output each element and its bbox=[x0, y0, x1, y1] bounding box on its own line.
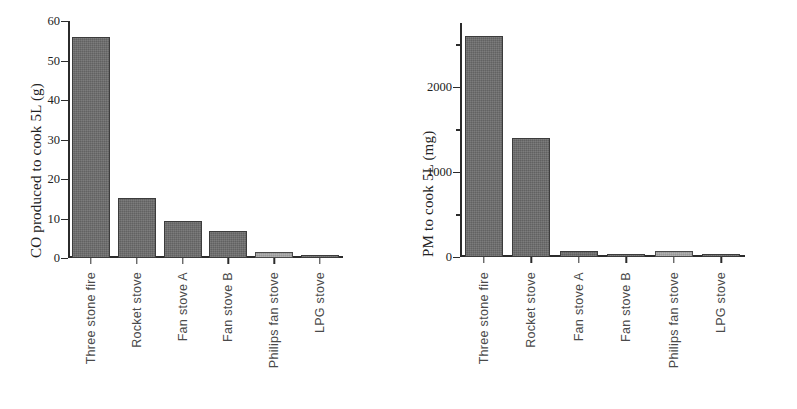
y-axis-label-pm: PM to cook 5L (mg) bbox=[420, 131, 437, 257]
x-axis-tick bbox=[721, 257, 722, 263]
panel-pm-emissions: PM to cook 5L (mg) 010002000 Three stone… bbox=[398, 0, 796, 409]
bar-series-co bbox=[68, 21, 343, 258]
x-axis-category-label: Rocket stove bbox=[524, 272, 538, 348]
y-axis-tick bbox=[61, 219, 68, 220]
bar bbox=[72, 37, 110, 258]
figure-two-panel-bar-charts: CO produced to cook 5L (g) 0102030405060… bbox=[0, 0, 797, 409]
x-axis-tick bbox=[274, 258, 275, 264]
x-axis-tick bbox=[673, 257, 674, 263]
x-axis-tick bbox=[136, 258, 137, 264]
x-axis-tick bbox=[90, 258, 91, 264]
y-axis-tick-label: 40 bbox=[48, 93, 61, 108]
y-axis-tick bbox=[453, 257, 460, 258]
y-axis-tick-label: 20 bbox=[48, 172, 61, 187]
x-axis-tick bbox=[182, 258, 183, 264]
x-axis-category-label: LPG stove bbox=[313, 272, 327, 333]
bar bbox=[164, 221, 202, 258]
bar bbox=[209, 231, 247, 258]
bar bbox=[512, 138, 550, 257]
x-axis-category-label: Fan stove A bbox=[176, 272, 190, 341]
x-axis-category-label: Three stone fire bbox=[84, 272, 98, 364]
y-axis-tick bbox=[61, 61, 68, 62]
y-axis-tick-label: 1000 bbox=[427, 164, 452, 179]
panel-co-emissions: CO produced to cook 5L (g) 0102030405060… bbox=[0, 0, 398, 409]
plot-area-pm: 010002000 bbox=[460, 23, 745, 257]
y-axis-label-co: CO produced to cook 5L (g) bbox=[28, 83, 45, 258]
x-axis-category-label: LPG stove bbox=[714, 272, 728, 333]
bar-series-pm bbox=[460, 23, 745, 257]
bar bbox=[118, 198, 156, 258]
x-axis-tick bbox=[531, 257, 532, 263]
y-axis-tick bbox=[456, 129, 460, 130]
x-axis-tick bbox=[228, 258, 229, 264]
x-axis-category-label: Three stone fire bbox=[477, 272, 491, 364]
x-axis-category-label: Fan stove B bbox=[619, 272, 633, 342]
y-axis-tick bbox=[453, 87, 460, 88]
y-axis-tick bbox=[61, 179, 68, 180]
x-axis-category-label: Philips fan stove bbox=[667, 272, 681, 368]
y-axis-tick-label: 0 bbox=[446, 250, 452, 265]
y-axis-tick bbox=[61, 21, 68, 22]
y-axis-tick-label: 60 bbox=[48, 14, 61, 29]
y-axis-tick bbox=[453, 172, 460, 173]
x-axis-tick bbox=[483, 257, 484, 263]
y-axis-tick bbox=[61, 100, 68, 101]
x-axis-category-label: Philips fan stove bbox=[267, 272, 281, 368]
y-axis-tick-label: 2000 bbox=[427, 79, 452, 94]
x-axis-tick bbox=[626, 257, 627, 263]
y-axis-tick-label: 0 bbox=[54, 251, 60, 266]
y-axis-tick bbox=[456, 44, 460, 45]
y-axis-tick bbox=[456, 214, 460, 215]
y-axis-tick bbox=[61, 258, 68, 259]
x-axis-tick bbox=[319, 258, 320, 264]
x-axis-tick bbox=[578, 257, 579, 263]
y-axis-tick bbox=[61, 140, 68, 141]
y-axis-tick-label: 30 bbox=[48, 132, 61, 147]
y-axis-tick-label: 10 bbox=[48, 211, 61, 226]
bar bbox=[465, 36, 503, 257]
x-axis-category-label: Rocket stove bbox=[130, 272, 144, 348]
plot-area-co: 0102030405060 bbox=[68, 21, 343, 258]
x-axis-category-label: Fan stove B bbox=[221, 272, 235, 342]
x-axis-category-label: Fan stove A bbox=[572, 272, 586, 341]
y-axis-tick-label: 50 bbox=[48, 53, 61, 68]
